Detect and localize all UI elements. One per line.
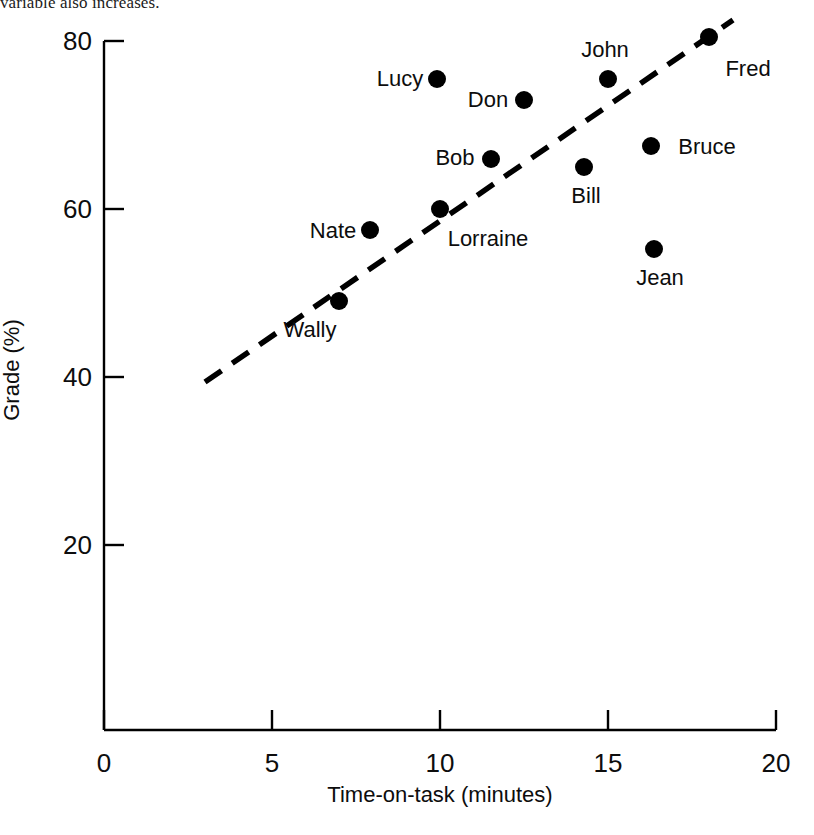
- point-label-lucy: Lucy: [377, 66, 423, 92]
- data-point-bob: [482, 150, 500, 168]
- point-label-bruce: Bruce: [678, 134, 735, 160]
- x-axis-ticks: [104, 710, 776, 730]
- plot-canvas: [0, 0, 814, 835]
- data-point-wally: [330, 292, 348, 310]
- x-axis-title: Time-on-task (minutes): [327, 782, 552, 808]
- y-axis-title: Grade (%): [0, 319, 25, 420]
- y-tick-label-60: 60: [42, 194, 92, 225]
- data-point-lorraine: [431, 200, 449, 218]
- data-point-bruce: [642, 137, 660, 155]
- data-point-nate: [361, 221, 379, 239]
- x-tick-label-10: 10: [426, 748, 455, 779]
- point-label-don: Don: [468, 87, 508, 113]
- y-tick-label-40: 40: [42, 362, 92, 393]
- x-tick-label-0: 0: [97, 748, 111, 779]
- y-tick-label-80: 80: [42, 26, 92, 57]
- point-label-john: John: [581, 37, 629, 63]
- point-label-lorraine: Lorraine: [448, 226, 529, 252]
- point-label-jean: Jean: [636, 265, 684, 291]
- y-tick-label-20: 20: [42, 530, 92, 561]
- data-point-don: [515, 91, 533, 109]
- x-tick-label-15: 15: [594, 748, 623, 779]
- scatter-plot-figure: variable also increases.: [0, 0, 814, 835]
- point-label-bill: Bill: [571, 183, 600, 209]
- point-label-bob: Bob: [435, 145, 474, 171]
- x-tick-label-20: 20: [762, 748, 791, 779]
- data-point-lucy: [428, 70, 446, 88]
- point-label-fred: Fred: [725, 56, 770, 82]
- x-tick-label-5: 5: [265, 748, 279, 779]
- point-label-wally: Wally: [284, 317, 337, 343]
- data-point-fred: [700, 28, 718, 46]
- point-label-nate: Nate: [310, 218, 356, 244]
- data-point-john: [599, 70, 617, 88]
- data-point-bill: [575, 158, 593, 176]
- data-point-jean: [645, 240, 663, 258]
- y-axis-ticks: [104, 41, 124, 545]
